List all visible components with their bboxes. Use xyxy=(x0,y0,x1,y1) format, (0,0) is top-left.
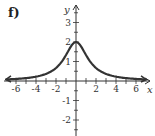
x-tick-label: 2 xyxy=(93,84,99,94)
axes xyxy=(4,5,150,136)
y-tick-label: 1 xyxy=(65,57,71,67)
x-tick-label: 6 xyxy=(133,84,139,94)
y-tick-label: 3 xyxy=(65,18,71,28)
panel-label: f) xyxy=(8,5,20,20)
x-tick-label: -2 xyxy=(52,84,61,94)
x-axis-label: x xyxy=(147,84,153,95)
y-axis-label: y xyxy=(63,4,70,15)
ticks: -6-4-2246-2-1123 xyxy=(12,13,140,130)
x-tick-label: -6 xyxy=(12,84,21,94)
y-tick-label: 2 xyxy=(65,37,71,47)
y-tick-label: -2 xyxy=(62,115,71,125)
chart: f) -6-4-2246-2-1123 x y xyxy=(0,0,155,136)
x-tick-label: 4 xyxy=(113,84,119,94)
y-tick-label: -1 xyxy=(62,96,71,106)
x-tick-label: -4 xyxy=(32,84,41,94)
